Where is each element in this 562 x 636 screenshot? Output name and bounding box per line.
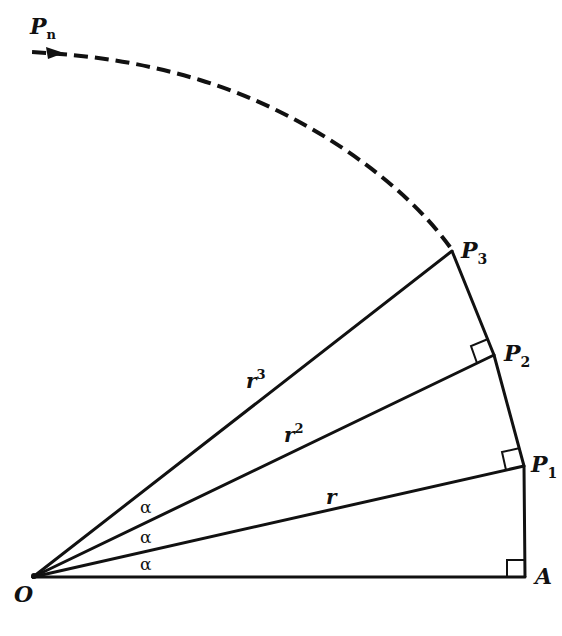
- segment-OP3: [33, 251, 452, 577]
- label-P2: P2: [503, 340, 530, 370]
- label-P3: P3: [460, 237, 487, 267]
- label-r3: r3: [246, 367, 266, 393]
- angle-label-alpha-1: α: [140, 554, 152, 574]
- angle-label-alpha-2: α: [140, 527, 152, 547]
- label-r2: r2: [284, 421, 304, 447]
- right-angle-A-icon: [507, 560, 525, 577]
- label-P1: P1: [530, 451, 557, 481]
- angle-label-alpha-3: α: [140, 497, 152, 517]
- label-r: r: [326, 485, 338, 509]
- origin-point: [31, 573, 37, 579]
- label-Pn: Pn: [29, 13, 57, 42]
- rays: [33, 251, 525, 577]
- segment-OP2: [33, 355, 494, 577]
- spiral-diagram: O A P1 P2 P3 Pn r r2 r3 α α α: [0, 0, 562, 636]
- hypotenuse-chain: [452, 251, 525, 577]
- spiral-continuation-arc: [30, 52, 450, 247]
- label-O: O: [14, 581, 33, 607]
- arrowhead-icon: [46, 47, 64, 59]
- label-A: A: [533, 563, 552, 589]
